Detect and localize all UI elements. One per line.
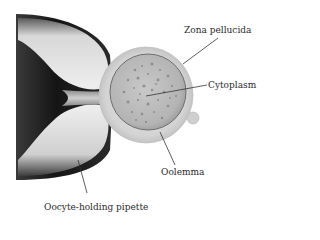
label-oolemma: Oolemma <box>161 168 204 177</box>
leader-zona <box>183 38 218 64</box>
label-cytoplasm: Cytoplasm <box>208 81 256 90</box>
polar-body <box>187 112 199 124</box>
label-zona-pellucida: Zona pellucida <box>184 26 251 35</box>
label-oocyte-holding-pipette: Oocyte-holding pipette <box>44 203 148 212</box>
cytoplasm <box>110 54 186 130</box>
